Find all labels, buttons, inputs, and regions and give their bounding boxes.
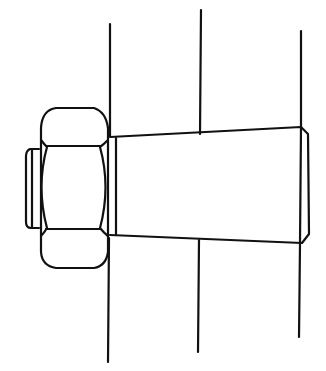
vertical-line-middle: [198, 10, 201, 352]
hex-nut: [41, 108, 108, 268]
bolt-end-washer: [26, 149, 39, 228]
bolt-drawing: [0, 0, 326, 371]
tapered-bolt-shank: [110, 127, 309, 243]
bolt-diagram: [0, 0, 326, 371]
